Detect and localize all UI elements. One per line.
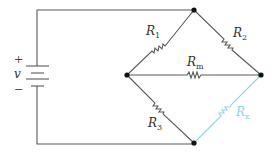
resistor-r2-label: R2 xyxy=(232,26,247,42)
circuit-diagram: + v − R1 R2 Rm R3 Rx xyxy=(0,0,274,156)
node-bottom xyxy=(191,140,196,145)
source-voltage-label: v xyxy=(14,67,21,81)
resistor-r2 xyxy=(194,10,261,75)
resistor-r1 xyxy=(127,10,194,75)
source-plus-label: + xyxy=(14,53,23,66)
top-wire xyxy=(37,10,194,66)
resistor-r1-label: R1 xyxy=(145,24,160,40)
resistor-rm-label: Rm xyxy=(186,55,204,71)
resistor-r3 xyxy=(127,75,194,143)
outer-loop xyxy=(37,10,194,144)
node-right xyxy=(258,72,263,77)
node-left xyxy=(124,72,129,77)
source-minus-label: − xyxy=(14,83,23,96)
resistor-rx xyxy=(194,75,261,143)
resistor-rx-label: Rx xyxy=(235,105,250,121)
node-top xyxy=(191,7,196,12)
resistor-r3-label: R3 xyxy=(147,116,162,132)
resistor-rm xyxy=(127,72,261,78)
voltage-source-icon xyxy=(26,66,49,86)
bottom-wire xyxy=(37,86,194,144)
